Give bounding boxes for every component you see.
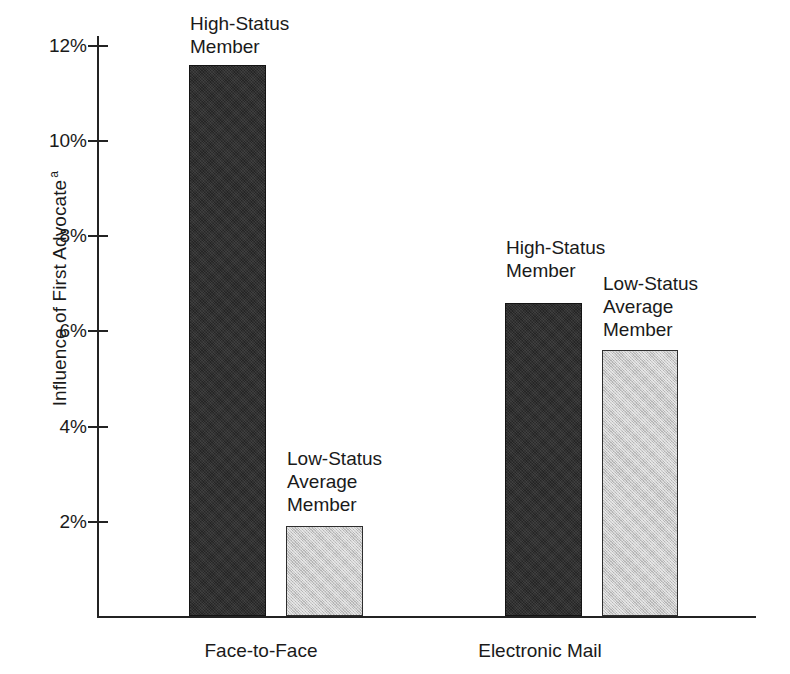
- y-axis-title-text: Influence of First Advocate: [49, 180, 70, 407]
- y-axis-tick-10: [88, 140, 108, 142]
- y-axis-tick-label-2: 2%: [60, 512, 87, 531]
- x-axis-line: [97, 616, 756, 618]
- bar-chart: Influence of First Advocatea 12% 10% 8% …: [0, 0, 790, 674]
- bar-caption-face-to-face-low-status: Low-Status Average Member: [287, 447, 382, 516]
- x-axis-label-face-to-face: Face-to-Face: [205, 641, 318, 660]
- y-axis-tick-label-12: 12%: [49, 36, 87, 55]
- bar-electronic-mail-low-status: [602, 350, 678, 616]
- y-axis-tick-8: [88, 235, 108, 237]
- y-axis-tick-4: [88, 426, 108, 428]
- bar-caption-face-to-face-high-status: High-Status Member: [190, 12, 289, 58]
- y-axis-tick-label-4: 4%: [60, 417, 87, 436]
- y-axis-title-footnote-marker: a: [47, 171, 61, 178]
- y-axis-tick-6: [88, 330, 108, 332]
- x-axis-label-electronic-mail: Electronic Mail: [478, 641, 602, 660]
- bar-face-to-face-low-status: [286, 526, 363, 616]
- bar-caption-electronic-mail-low-status: Low-Status Average Member: [603, 272, 698, 341]
- y-axis-tick-label-6: 6%: [60, 321, 87, 340]
- bar-electronic-mail-high-status: [505, 303, 582, 616]
- y-axis-line: [97, 36, 99, 618]
- y-axis-tick-2: [88, 521, 108, 523]
- bar-face-to-face-high-status: [189, 65, 266, 616]
- y-axis-tick-label-8: 8%: [60, 226, 87, 245]
- y-axis-tick-12: [88, 45, 108, 47]
- y-axis-tick-label-10: 10%: [49, 131, 87, 150]
- bar-caption-electronic-mail-high-status: High-Status Member: [506, 236, 605, 282]
